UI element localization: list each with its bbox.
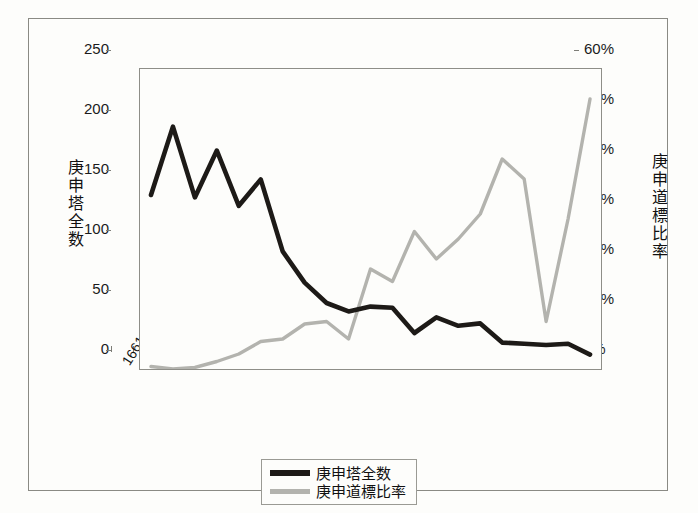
legend-item-koshin-total: 庚申塔全数 [270,464,406,482]
legend-label-koshin-ratio: 庚申道標比率 [316,484,406,499]
series-line-koshin-ratio [151,99,590,369]
plot-area [139,68,602,370]
legend-item-koshin-ratio: 庚申道標比率 [270,482,406,500]
chart-legend: 庚申塔全数 庚申道標比率 [261,459,417,505]
legend-swatch-black-line-icon [270,470,310,476]
legend-label-koshin-total: 庚申塔全数 [316,466,391,481]
series-line-koshin-total [151,127,590,355]
chart-figure-frame: 庚 申 塔 全 数 庚 申 道 標 比 率 050100150200250 0%… [28,18,668,491]
series-canvas [140,69,601,369]
legend-swatch-gray-line-icon [270,489,310,494]
